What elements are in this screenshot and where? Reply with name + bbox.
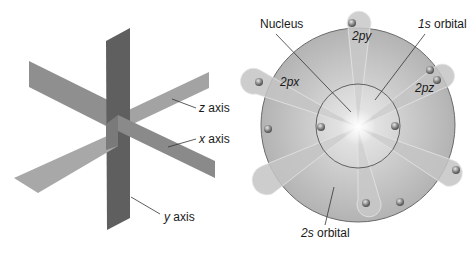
x-axis-band-back (29, 61, 118, 132)
nucleus-label: Nucleus (260, 18, 303, 30)
z-axis-label: z axis (199, 102, 230, 114)
atomic-orbital-diagram: Nucleus 1s orbital 2py 2px 2pz 2s orbita… (240, 0, 473, 254)
axes-planes-diagram: z axis x axis y axis (0, 0, 240, 254)
y-axis-label: y axis (164, 211, 195, 223)
orbital-2s-label: 2s orbital (301, 227, 350, 239)
nucleus (340, 109, 376, 145)
orbital-2pz-label: 2pz (415, 82, 434, 94)
orbital-2py-label: 2py (352, 30, 371, 42)
x-axis-label: x axis (199, 133, 230, 145)
x-axis-band-front (118, 115, 215, 178)
orbital-2px-label: 2px (280, 76, 299, 88)
orbital-1s-label: 1s orbital (418, 18, 467, 30)
axes-planes-graphic (0, 0, 240, 254)
y-axis-leader (131, 197, 160, 214)
z-axis-band-front (14, 131, 118, 193)
